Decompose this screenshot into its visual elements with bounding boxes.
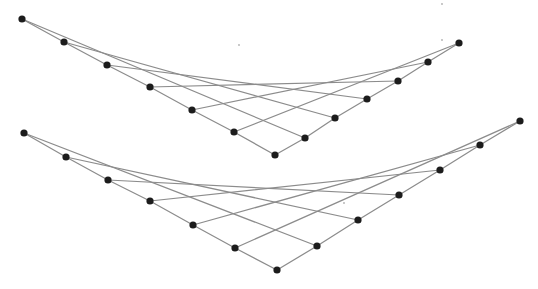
left-arm-node xyxy=(230,128,237,135)
right-arm-segment xyxy=(305,118,335,138)
left-arm-node xyxy=(146,197,153,204)
left-arm-node xyxy=(18,15,25,22)
left-arm-segment xyxy=(66,157,108,180)
string-art-diagram xyxy=(0,0,538,289)
right-arm-node xyxy=(395,191,402,198)
left-arm-node xyxy=(62,153,69,160)
left-arm-segment xyxy=(22,19,64,42)
left-arm-node xyxy=(189,221,196,228)
right-arm-node xyxy=(455,39,462,46)
left-arm-node xyxy=(104,176,111,183)
right-arm-segment xyxy=(335,99,367,118)
right-arm-node xyxy=(436,166,443,173)
lower-envelope-figure xyxy=(20,117,523,273)
right-arm-node xyxy=(363,95,370,102)
stray-marks xyxy=(238,3,443,204)
right-arm-segment xyxy=(277,246,317,270)
left-arm-segment xyxy=(234,132,275,155)
right-arm-node xyxy=(301,134,308,141)
right-arm-node xyxy=(313,242,320,249)
left-arm-segment xyxy=(193,225,235,248)
vertex-node xyxy=(271,151,278,158)
vertex-node xyxy=(273,266,280,273)
right-arm-node xyxy=(331,114,338,121)
envelope-chord xyxy=(234,43,459,132)
envelope-chord xyxy=(235,121,520,248)
upper-envelope-figure xyxy=(18,15,462,158)
left-arm-node xyxy=(146,83,153,90)
envelope-chord xyxy=(193,145,480,225)
right-arm-segment xyxy=(428,43,459,62)
envelope-chord xyxy=(108,180,399,195)
envelope-chord xyxy=(64,42,335,118)
right-arm-node xyxy=(476,141,483,148)
envelope-chord xyxy=(66,157,358,220)
speck-mark xyxy=(343,202,345,204)
right-arm-segment xyxy=(480,121,520,145)
left-arm-segment xyxy=(192,110,234,132)
speck-mark xyxy=(238,44,240,46)
left-arm-node xyxy=(20,129,27,136)
left-arm-segment xyxy=(24,133,66,157)
left-arm-segment xyxy=(150,87,192,110)
left-arm-node xyxy=(231,244,238,251)
right-arm-node xyxy=(516,117,523,124)
right-arm-segment xyxy=(367,81,398,99)
left-arm-segment xyxy=(150,201,193,225)
right-arm-segment xyxy=(358,195,399,220)
left-arm-node xyxy=(188,106,195,113)
right-arm-segment xyxy=(275,138,305,155)
left-arm-node xyxy=(103,61,110,68)
right-arm-node xyxy=(394,77,401,84)
right-arm-segment xyxy=(317,220,358,246)
envelope-chord xyxy=(24,133,317,246)
left-arm-segment xyxy=(108,180,150,201)
right-arm-node xyxy=(424,58,431,65)
speck-mark xyxy=(441,39,443,41)
speck-mark xyxy=(441,3,443,5)
left-arm-node xyxy=(60,38,67,45)
left-arm-segment xyxy=(235,248,277,270)
right-arm-segment xyxy=(440,145,480,170)
right-arm-node xyxy=(354,216,361,223)
